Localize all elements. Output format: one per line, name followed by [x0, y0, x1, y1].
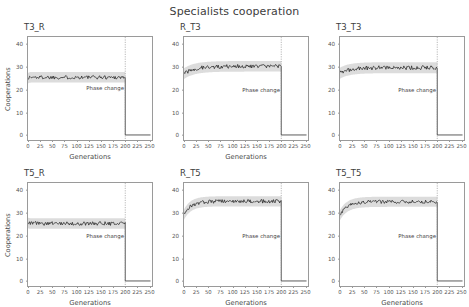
panel-title: T5_T5 — [336, 168, 361, 178]
x-tick-mark — [113, 286, 114, 288]
x-tick-mark — [462, 286, 463, 288]
x-tick-mark — [220, 286, 221, 288]
x-tick-mark — [376, 140, 377, 142]
x-tick-mark — [245, 286, 246, 288]
confidence-band — [340, 197, 437, 220]
y-tick-mark — [182, 235, 184, 236]
x-tick-mark — [89, 286, 90, 288]
y-tick-mark — [26, 258, 28, 259]
y-tick-mark — [338, 258, 340, 259]
y-tick-mark — [182, 190, 184, 191]
phase-change-annotation: Phase change — [86, 85, 124, 91]
y-tick-mark — [182, 44, 184, 45]
x-axis-label: Generations — [184, 299, 308, 307]
x-tick-mark — [306, 286, 307, 288]
y-tick-mark — [182, 66, 184, 67]
x-tick-mark — [437, 286, 438, 288]
x-tick-mark — [401, 140, 402, 142]
y-tick-mark — [338, 190, 340, 191]
x-tick-mark — [352, 286, 353, 288]
x-tick-mark — [389, 140, 390, 142]
y-tick-mark — [26, 212, 28, 213]
plot-area[interactable]: 0102030400255075100125150175200225250Pha… — [339, 182, 465, 287]
y-tick-mark — [338, 212, 340, 213]
x-tick-mark — [64, 286, 65, 288]
y-tick-label: 30 — [165, 210, 179, 216]
x-tick-mark — [40, 140, 41, 142]
x-tick-mark — [77, 140, 78, 142]
series-line — [184, 199, 307, 280]
y-tick-mark — [26, 44, 28, 45]
x-tick-mark — [125, 286, 126, 288]
plot-area[interactable]: 0102030400255075100125150175200225250Pha… — [27, 36, 153, 141]
x-tick-mark — [220, 140, 221, 142]
confidence-band — [184, 61, 281, 79]
y-tick-mark — [182, 212, 184, 213]
x-tick-mark — [196, 286, 197, 288]
y-tick-mark — [338, 135, 340, 136]
phase-change-annotation: Phase change — [86, 233, 124, 239]
y-tick-mark — [338, 66, 340, 67]
x-tick-mark — [413, 140, 414, 142]
x-tick-mark — [364, 140, 365, 142]
x-tick-mark — [150, 140, 151, 142]
plot-area[interactable]: 0102030400255075100125150175200225250Pha… — [183, 182, 309, 287]
y-tick-label: 20 — [321, 233, 335, 239]
y-tick-mark — [26, 112, 28, 113]
plot-area[interactable]: 0102030400255075100125150175200225250Pha… — [183, 36, 309, 141]
x-tick-mark — [352, 140, 353, 142]
panel-t3-r: T3_R 01020304002550751001251501752002252… — [0, 22, 156, 152]
x-tick-mark — [449, 140, 450, 142]
x-tick-mark — [413, 286, 414, 288]
series-line — [340, 66, 463, 135]
y-tick-label: 0 — [9, 132, 23, 138]
y-tick-mark — [338, 44, 340, 45]
y-tick-label: 0 — [9, 278, 23, 284]
y-tick-label: 40 — [9, 41, 23, 47]
plot-area[interactable]: 0102030400255075100125150175200225250Pha… — [339, 36, 465, 141]
panel-title: T3_T3 — [336, 22, 361, 32]
phase-change-annotation: Phase change — [242, 233, 280, 239]
y-tick-mark — [338, 89, 340, 90]
series-line — [28, 222, 151, 281]
x-tick-mark — [449, 286, 450, 288]
x-tick-mark — [77, 286, 78, 288]
x-tick-mark — [401, 286, 402, 288]
x-tick-mark — [64, 140, 65, 142]
x-tick-mark — [269, 140, 270, 142]
y-tick-mark — [26, 66, 28, 67]
x-tick-mark — [233, 140, 234, 142]
panel-t3-t3: T3_T3 0102030400255075100125150175200225… — [312, 22, 468, 152]
x-tick-mark — [376, 286, 377, 288]
x-tick-mark — [208, 140, 209, 142]
x-axis-label: Generations — [28, 153, 152, 161]
panel-title: T5_R — [24, 168, 45, 178]
x-tick-mark — [425, 140, 426, 142]
y-tick-mark — [26, 89, 28, 90]
plot-area[interactable]: 0102030400255075100125150175200225250Pha… — [27, 182, 153, 287]
x-tick-mark — [184, 286, 185, 288]
x-tick-mark — [269, 286, 270, 288]
panel-title: R_T5 — [180, 168, 201, 178]
y-tick-label: 0 — [165, 278, 179, 284]
panel-title: T3_R — [24, 22, 45, 32]
x-tick-mark — [389, 286, 390, 288]
y-tick-mark — [338, 112, 340, 113]
y-tick-label: 40 — [321, 41, 335, 47]
panel-r-t5: R_T5 01020304002550751001251501752002252… — [156, 168, 312, 304]
y-tick-label: 20 — [165, 87, 179, 93]
x-tick-mark — [257, 286, 258, 288]
panel-t5-t5: T5_T5 0102030400255075100125150175200225… — [312, 168, 468, 304]
y-tick-label: 40 — [165, 187, 179, 193]
x-axis-label: Generations — [184, 153, 308, 161]
y-tick-mark — [338, 281, 340, 282]
x-tick-mark — [293, 140, 294, 142]
x-tick-mark — [257, 140, 258, 142]
x-tick-mark — [281, 140, 282, 142]
x-tick-mark — [150, 286, 151, 288]
confidence-band — [184, 196, 281, 219]
x-tick-label: 250 — [454, 289, 469, 295]
x-tick-mark — [52, 286, 53, 288]
y-tick-label: 40 — [321, 187, 335, 193]
y-tick-label: 40 — [165, 41, 179, 47]
